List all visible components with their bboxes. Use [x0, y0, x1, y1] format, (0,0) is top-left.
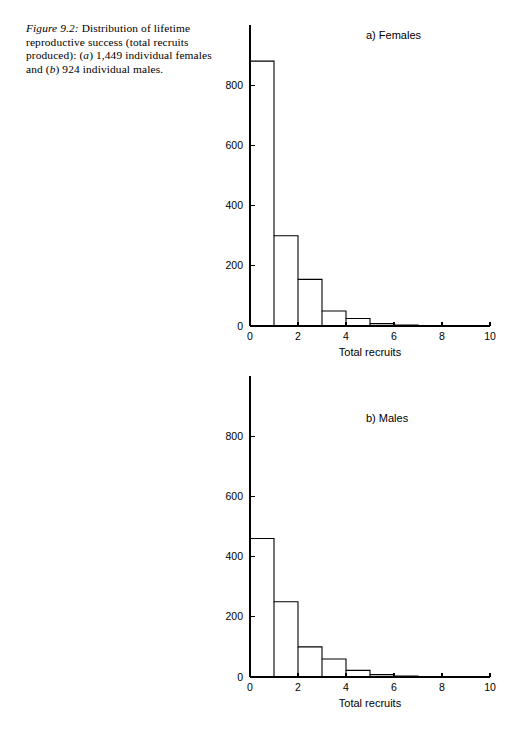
females-xtick-label-2: 2: [295, 330, 301, 342]
males-panel-title: b) Males: [366, 412, 409, 424]
females-panel-title: a) Females: [366, 29, 422, 41]
males-xtick-label-10: 10: [484, 681, 496, 693]
chart-males: 02004006008000246810Total recruitsb) Mal…: [0, 351, 528, 733]
males-x-axis-title: Total recruits: [339, 697, 402, 709]
females-ytick-label-0: 0: [237, 320, 243, 332]
chart-females-plot: 02004006008000246810Total recruitsa) Fem…: [225, 25, 496, 358]
males-histogram: [250, 539, 442, 677]
females-xtick-label-6: 6: [391, 330, 397, 342]
females-xtick-label-10: 10: [484, 330, 496, 342]
males-xtick-label-2: 2: [295, 681, 301, 693]
males-ytick-label-800: 800: [225, 430, 243, 442]
chart-females: 02004006008000246810Total recruitsa) Fem…: [0, 0, 528, 370]
females-xtick-label-4: 4: [343, 330, 349, 342]
chart-males-svg: 02004006008000246810Total recruitsb) Mal…: [0, 351, 528, 733]
females-ytick-label-600: 600: [225, 139, 243, 151]
males-ytick-label-600: 600: [225, 490, 243, 502]
males-ytick-label-200: 200: [225, 610, 243, 622]
females-xtick-label-0: 0: [247, 330, 253, 342]
males-xtick-label-0: 0: [247, 681, 253, 693]
females-xtick-label-8: 8: [439, 330, 445, 342]
males-ytick-label-0: 0: [237, 671, 243, 683]
males-xtick-label-4: 4: [343, 681, 349, 693]
males-xtick-label-6: 6: [391, 681, 397, 693]
females-histogram: [250, 61, 418, 326]
females-ytick-label-400: 400: [225, 199, 243, 211]
males-xtick-label-8: 8: [439, 681, 445, 693]
chart-females-svg: 02004006008000246810Total recruitsa) Fem…: [0, 0, 528, 370]
males-ytick-label-400: 400: [225, 550, 243, 562]
females-ytick-label-800: 800: [225, 79, 243, 91]
chart-males-plot: 02004006008000246810Total recruitsb) Mal…: [225, 376, 496, 709]
females-ytick-label-200: 200: [225, 259, 243, 271]
figure-page: Figure 9.2: Distribution of lifetime rep…: [0, 0, 528, 733]
